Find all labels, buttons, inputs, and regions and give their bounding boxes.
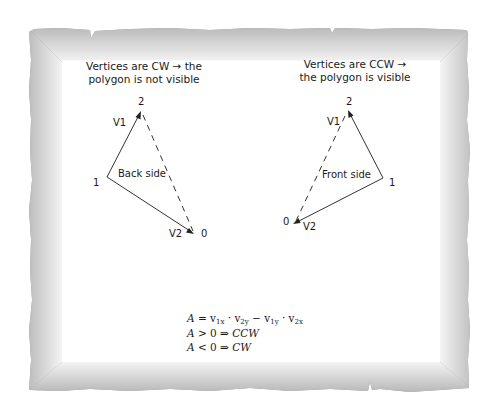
right-vertex-1-label: 1 (389, 177, 395, 188)
right-vector-v2-label: V2 (303, 221, 316, 232)
right-vertex-2-label: 2 (346, 96, 352, 107)
left-caption: Vertices are CW → the polygon is not vis… (76, 60, 212, 86)
right-caption: Vertices are CCW → the polygon is visibl… (290, 58, 420, 84)
right-caption-line2: the polygon is visible (290, 71, 420, 84)
left-caption-line2: polygon is not visible (76, 73, 212, 86)
equation-ccw: A > 0 ⇒ CCW (187, 327, 259, 340)
left-caption-line1: Vertices are CW → the (76, 60, 212, 73)
eq3-lhs: A (187, 341, 195, 353)
left-vertex-1-label: 1 (93, 177, 99, 188)
equation-area: A = v1x · v2y − v1y · v2x (187, 312, 303, 325)
left-vector-v2-label: V2 (169, 228, 182, 239)
eq1-sub3: 1y (270, 318, 278, 326)
left-vertex-0-label: 0 (201, 228, 207, 239)
eq3-rhs: CW (232, 341, 251, 353)
eq1-minus: − v (249, 312, 270, 324)
left-side-label: Back side (118, 168, 166, 179)
eq1-dot1: · v (224, 312, 240, 324)
eq2-lhs: A (187, 327, 195, 339)
left-vector-v1-label: V1 (113, 117, 126, 128)
right-side-label: Front side (322, 169, 371, 180)
eq2-rel: > 0 ⇒ (195, 327, 233, 339)
right-vector-v1-label: V1 (327, 116, 340, 127)
eq2-rhs: CCW (232, 327, 259, 339)
eq1-sub2: 2y (240, 318, 248, 326)
right-caption-line1: Vertices are CCW → (290, 58, 420, 71)
eq1-lhs: A (187, 312, 195, 324)
eq1-dot2: · v (279, 312, 295, 324)
eq1-part: = v (195, 312, 216, 324)
right-vertex-0-label: 0 (283, 216, 289, 227)
equation-cw: A < 0 ⇒ CW (187, 341, 251, 354)
eq3-rel: < 0 ⇒ (195, 341, 233, 353)
left-vertex-2-label: 2 (138, 96, 144, 107)
eq1-sub4: 2x (295, 318, 303, 326)
